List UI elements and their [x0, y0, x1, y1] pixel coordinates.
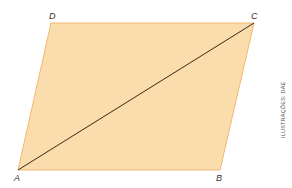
- parallelogram-diagram: D C A B ILUSTRAÇÕES: DAE: [0, 0, 292, 188]
- illustration-credit: ILUSTRAÇÕES: DAE: [280, 81, 286, 138]
- vertex-label-b: B: [216, 173, 222, 183]
- vertex-label-a: A: [13, 173, 20, 183]
- vertex-label-c: C: [251, 11, 258, 21]
- vertex-label-d: D: [49, 11, 56, 21]
